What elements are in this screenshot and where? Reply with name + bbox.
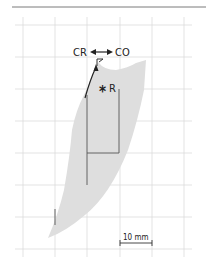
scale-bar-label: 10 mm — [123, 233, 148, 242]
shaded-region — [48, 60, 146, 238]
double-headed-arrow-icon — [90, 49, 113, 55]
label-cr: CR — [73, 46, 87, 59]
asterisk-icon: * — [99, 83, 106, 101]
diagram-canvas: CR CO * R 10 mm — [0, 0, 206, 265]
label-co: CO — [115, 46, 130, 59]
label-r: R — [109, 82, 116, 95]
